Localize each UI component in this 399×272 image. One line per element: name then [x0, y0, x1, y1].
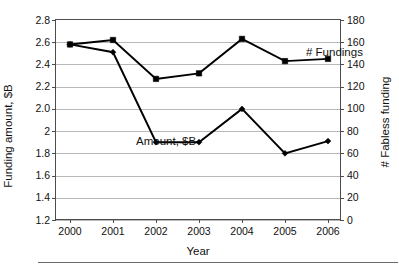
series-label-fundings: # Fundings — [306, 47, 363, 59]
x-axis-tick-label: 2003 — [187, 226, 210, 237]
x-axis-tick-label: 2001 — [101, 226, 124, 237]
plot-area: 2.82.62.42.22.021.81.61.41.2 18016014012… — [55, 19, 341, 220]
left-axis-tick-label: 2.8 — [35, 15, 50, 26]
right-axis-tick-label: 140 — [347, 59, 365, 70]
left-axis-tick-label: 2.2 — [35, 81, 50, 92]
x-axis-tick-label: 2006 — [316, 226, 339, 237]
series-fundings — [67, 36, 330, 81]
left-axis-tick-label: 1.4 — [35, 192, 50, 203]
left-axis-tick-label: 1.6 — [35, 170, 50, 181]
series-marker-diamond — [325, 138, 331, 144]
right-axis-tick-label: 180 — [347, 15, 365, 26]
x-axis-title: Year — [186, 245, 209, 257]
right-axis-tick-label: 100 — [347, 103, 365, 114]
series-marker-square — [196, 71, 201, 76]
series-label-amount: Amount, $B — [136, 136, 196, 148]
series-marker-square — [282, 58, 287, 63]
right-axis-tick-label: 120 — [347, 81, 365, 92]
left-axis-tick-label: 1.8 — [35, 148, 50, 159]
x-axis-tick-label: 2002 — [144, 226, 167, 237]
left-axis-tick-label: 1.2 — [35, 215, 50, 226]
left-axis-tick-label: 2.4 — [35, 59, 50, 70]
x-axis-tick-label: 2000 — [58, 226, 81, 237]
right-axis-tick-label: 60 — [347, 148, 359, 159]
left-axis-tick-label: 2.0 — [35, 103, 50, 114]
series-marker-square — [153, 76, 158, 81]
series-amount — [67, 42, 331, 157]
left-axis-title: Funding amount, $B — [2, 84, 14, 188]
x-axis-tick-label: 2004 — [230, 226, 253, 237]
right-axis-tick-label: 80 — [347, 126, 359, 137]
right-axis-tick-label: 0 — [347, 215, 353, 226]
series-plot-layer — [56, 20, 342, 221]
right-axis-tick-label: 40 — [347, 170, 359, 181]
left-axis-tick-label: 2.6 — [35, 37, 50, 48]
footer-divider — [38, 262, 398, 263]
left-axis-tick-label: 2 — [44, 126, 50, 137]
right-axis-title: # Fabless funding — [379, 77, 391, 168]
chart-figure: Funding amount, $B # Fabless funding Yea… — [0, 0, 399, 272]
series-marker-square — [110, 37, 115, 42]
series-marker-diamond — [110, 49, 116, 55]
x-axis-tick-label: 2005 — [273, 226, 296, 237]
right-axis-tick-label: 20 — [347, 192, 359, 203]
series-marker-square — [239, 36, 244, 41]
